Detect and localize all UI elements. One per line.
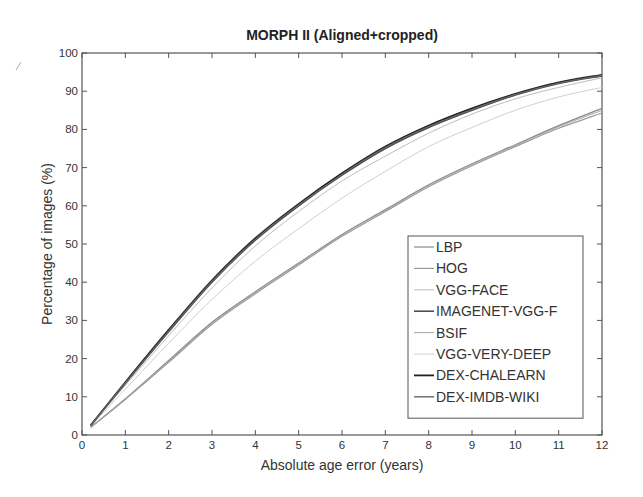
y-tick-label: 60	[65, 200, 78, 212]
x-tick-label: 12	[596, 439, 609, 451]
y-tick-label: 0	[72, 429, 78, 441]
legend-label: LBP	[436, 239, 462, 255]
x-tick-label: 8	[425, 439, 431, 451]
legend-label: BSIF	[436, 325, 467, 341]
y-axis-label: Percentage of images (%)	[39, 163, 55, 325]
y-tick-label: 40	[65, 276, 78, 288]
x-tick-label: 0	[79, 439, 85, 451]
x-tick-label: 2	[165, 439, 171, 451]
x-tick-label: 6	[339, 439, 345, 451]
y-tick-label: 100	[59, 47, 78, 59]
legend-label: DEX-CHALEARN	[436, 367, 546, 383]
y-tick-label: 10	[65, 391, 78, 403]
y-tick-label: 80	[65, 123, 78, 135]
legend: LBPHOGVGG-FACEIMAGENET-VGG-FBSIFVGG-VERY…	[408, 236, 583, 418]
legend-label: VGG-FACE	[436, 282, 508, 298]
y-tick-label: 20	[65, 353, 78, 365]
x-tick-label: 11	[553, 439, 565, 451]
x-tick-label: 4	[252, 439, 259, 451]
x-tick-label: 5	[295, 439, 301, 451]
legend-label: HOG	[436, 260, 468, 276]
y-tick-label: 90	[65, 85, 78, 97]
y-tick-label: 70	[65, 162, 78, 174]
y-tick-label: 50	[65, 238, 78, 250]
chart: MORPH II (Aligned+cropped) 0123456789101…	[0, 0, 643, 497]
legend-label: DEX-IMDB-WIKI	[436, 389, 539, 405]
x-tick-label: 7	[382, 439, 388, 451]
x-tick-label: 10	[509, 439, 522, 451]
stray-mark	[16, 62, 21, 70]
x-tick-label: 1	[122, 439, 128, 451]
legend-label: VGG-VERY-DEEP	[436, 346, 551, 362]
x-axis-label: Absolute age error (years)	[261, 457, 424, 473]
x-tick-label: 3	[209, 439, 215, 451]
x-tick-label: 9	[469, 439, 475, 451]
legend-label: IMAGENET-VGG-F	[436, 303, 557, 319]
y-tick-label: 30	[65, 314, 78, 326]
chart-title: MORPH II (Aligned+cropped)	[246, 27, 438, 43]
